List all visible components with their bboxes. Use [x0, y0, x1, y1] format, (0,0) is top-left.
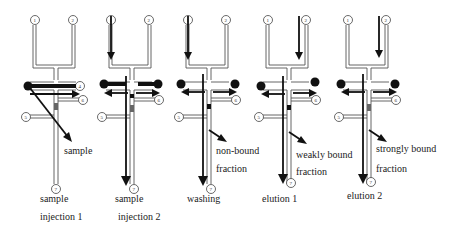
channel-inlet-1-inner	[189, 25, 225, 65]
caption-line2: injection 1	[40, 211, 83, 222]
channel-port-6	[134, 98, 155, 101]
arrowhead-diagonal-icon	[217, 134, 227, 142]
arrowhead-left-icon	[181, 88, 189, 96]
plug-right-icon	[231, 80, 240, 89]
flow-label-line1: non-bound	[216, 145, 259, 156]
arrowhead-down-icon	[375, 50, 383, 58]
arrowhead-diagonal-icon	[377, 134, 387, 142]
channel-port-6	[291, 98, 312, 101]
arrowhead-left-icon	[341, 88, 349, 96]
arrowhead-down-icon	[198, 176, 208, 186]
valve-segment	[54, 103, 58, 110]
arrowhead-left-icon	[261, 90, 269, 98]
flow-label-line2: fraction	[296, 166, 327, 177]
caption-line1: elution 1	[262, 193, 297, 204]
panel-sample-injection-1: 1 2 4 6 5 7 sample sample injection 1	[22, 16, 93, 223]
arrowhead-diagonal-icon	[297, 136, 307, 144]
channel-port-6	[58, 98, 79, 101]
arrowhead-down-icon	[107, 52, 115, 60]
panel-elution-1: 1 2 6 5 7 weakly bound fraction elution …	[255, 16, 353, 205]
caption-line1: elution 2	[347, 190, 382, 201]
flow-label-line1: sample	[64, 145, 93, 156]
plug-left-icon	[257, 82, 266, 91]
valve-segment	[130, 105, 134, 112]
channel-junction	[263, 82, 309, 90]
channel-junction	[343, 82, 389, 90]
flow-label-line1: weakly bound	[296, 149, 352, 160]
channel-main-stem	[287, 90, 291, 184]
panel-sample-injection-2: 1 2 6 5 7 sample injection 2	[98, 16, 164, 223]
panel-elution-2: 1 2 6 5 7 strongly bound fraction elutio…	[335, 16, 437, 202]
caption-line1: washing	[187, 193, 220, 204]
flow-label-line2: fraction	[376, 163, 407, 174]
valve-segment	[367, 104, 371, 111]
channel-inlet-1-inner	[36, 25, 72, 65]
plug-left-icon	[337, 80, 346, 89]
panel-washing: 1 2 6 5 7 non-bound fraction washing	[175, 16, 260, 205]
arrowhead-down-icon	[121, 176, 131, 186]
microfluidic-diagram: 1 2 4 6 5 7 sample sample injection 1	[0, 0, 454, 229]
sample-flow-arrow	[30, 88, 68, 137]
valve-closed	[207, 104, 211, 109]
plug-right-icon	[311, 78, 320, 87]
arrowhead-right-icon	[72, 90, 80, 98]
channel-port-6	[211, 98, 232, 101]
arrowhead-down-icon	[184, 52, 192, 60]
plug-left-icon	[177, 80, 186, 89]
channel-inlet-1-inner	[112, 25, 148, 65]
flow-label-line1: strongly bound	[376, 143, 436, 154]
channel-main-stem	[130, 90, 134, 184]
channel-port-6	[371, 98, 392, 101]
caption-line1: sample	[115, 193, 144, 204]
arrowhead-down-icon	[295, 52, 303, 60]
arrowhead-right-icon	[229, 88, 237, 96]
plug-right-icon	[391, 80, 400, 89]
valve-closed	[130, 94, 134, 98]
valve-closed	[287, 105, 291, 110]
arrowhead-right-icon	[389, 88, 397, 96]
caption-line2: injection 2	[118, 211, 161, 222]
caption-line1: sample	[40, 193, 69, 204]
channel-junction	[183, 82, 229, 90]
flow-label-line2: fraction	[216, 163, 247, 174]
